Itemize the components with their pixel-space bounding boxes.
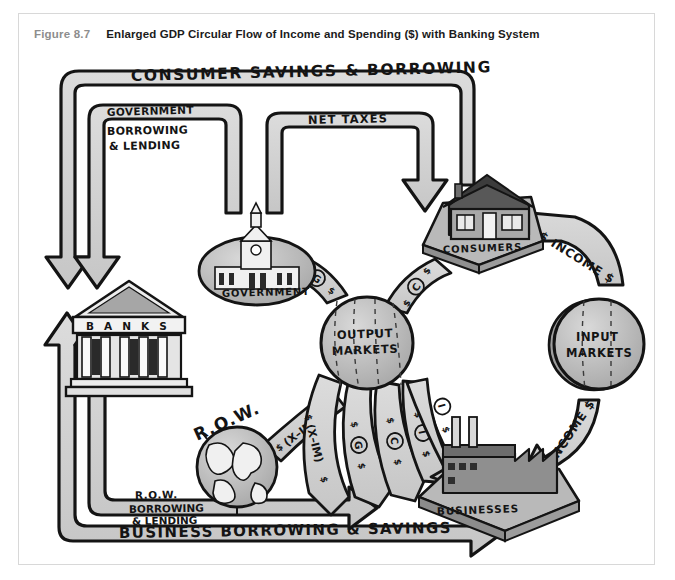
node-output-markets-label-line2: MARKETS <box>332 342 399 358</box>
figure-title: Enlarged GDP Circular Flow of Income and… <box>106 28 539 40</box>
label-government-line3: & LENDING <box>109 139 181 153</box>
label-government-borrowing-lending: GOVERNMENT BORROWING & LENDING <box>107 104 195 153</box>
label-row-borrowing-lending: R.O.W. BORROWING & LENDING <box>129 488 204 527</box>
node-input-markets-label-line1: INPUT <box>576 330 619 344</box>
figure-page: Figure 8.7Enlarged GDP Circular Flow of … <box>0 0 675 580</box>
figure-caption: Figure 8.7Enlarged GDP Circular Flow of … <box>34 28 540 40</box>
node-government: GOVERNMENT <box>199 203 315 305</box>
node-input-markets: INPUT MARKETS <box>549 299 644 390</box>
diagram-canvas: CONSUMER SAVINGS & BORROWING GOVERNMENT … <box>19 45 654 564</box>
node-banks: B A N K S <box>66 281 192 396</box>
node-government-label: GOVERNMENT <box>222 286 310 299</box>
flow-net-taxes <box>267 113 447 213</box>
svg-text:$: $ <box>440 425 451 434</box>
node-input-markets-label-line2: MARKETS <box>566 346 632 360</box>
figure-number: Figure 8.7 <box>34 28 90 40</box>
node-output-markets: OUTPUT MARKETS <box>321 297 413 389</box>
node-output-markets-label-line1: OUTPUT <box>337 326 394 342</box>
label-government-line1: GOVERNMENT <box>107 104 195 118</box>
label-government-line2: BORROWING <box>107 124 188 138</box>
label-row-line3: & LENDING <box>132 514 198 527</box>
node-row: R.O.W. <box>190 398 277 515</box>
node-banks-label: B A N K S <box>86 320 170 332</box>
svg-text:I: I <box>436 402 448 409</box>
label-net-taxes: NET TAXES <box>308 111 388 127</box>
label-row-line1: R.O.W. <box>135 488 178 501</box>
